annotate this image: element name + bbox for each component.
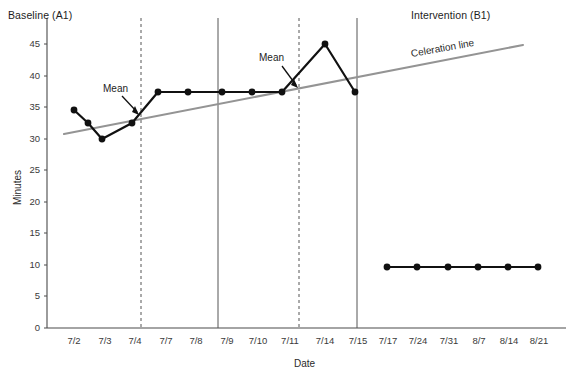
y-tick-label-15: 15 bbox=[14, 227, 40, 238]
y-tick-label-10: 10 bbox=[14, 259, 40, 270]
single-case-design-chart: Baseline (A1) Intervention (B1) Mean Mea… bbox=[0, 0, 579, 384]
x-axis-title: Date bbox=[294, 358, 315, 369]
annotation-mean-2: Mean bbox=[259, 52, 284, 63]
y-tick-label-0: 0 bbox=[14, 322, 40, 333]
annotation-mean-1: Mean bbox=[103, 83, 128, 94]
y-tick-label-40: 40 bbox=[14, 70, 40, 81]
y-tick-label-20: 20 bbox=[14, 196, 40, 207]
y-tick-label-45: 45 bbox=[14, 38, 40, 49]
y-tick-label-35: 35 bbox=[14, 101, 40, 112]
phase-label-intervention: Intervention (B1) bbox=[411, 9, 490, 21]
y-tick-label-25: 25 bbox=[14, 164, 40, 175]
y-tick-label-30: 30 bbox=[14, 133, 40, 144]
chart-canvas bbox=[0, 0, 579, 384]
y-tick-label-5: 5 bbox=[14, 290, 40, 301]
phase-label-baseline: Baseline (A1) bbox=[8, 9, 72, 21]
mean-arrow-1-icon bbox=[122, 96, 139, 115]
x-tick-label-15: 8/21 bbox=[517, 335, 561, 346]
